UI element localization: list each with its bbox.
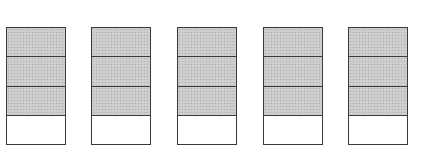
- fraction-bar-5: [348, 27, 408, 145]
- fraction-bar-4: [263, 27, 323, 145]
- shaded-part: [7, 87, 65, 116]
- shaded-part: [264, 28, 322, 57]
- fraction-bar-3: [177, 27, 237, 145]
- shaded-part: [92, 28, 150, 57]
- unshaded-part: [349, 116, 407, 144]
- shaded-part: [264, 57, 322, 86]
- shaded-part: [7, 57, 65, 86]
- unshaded-part: [264, 116, 322, 144]
- fraction-bar-1: [6, 27, 66, 145]
- shaded-part: [178, 57, 236, 86]
- unshaded-part: [178, 116, 236, 144]
- shaded-part: [7, 28, 65, 57]
- shaded-part: [92, 87, 150, 116]
- shaded-part: [178, 28, 236, 57]
- unshaded-part: [92, 116, 150, 144]
- shaded-part: [178, 87, 236, 116]
- shaded-part: [264, 87, 322, 116]
- shaded-part: [349, 57, 407, 86]
- shaded-part: [92, 57, 150, 86]
- unshaded-part: [7, 116, 65, 144]
- shaded-part: [349, 87, 407, 116]
- fraction-bar-2: [91, 27, 151, 145]
- shaded-part: [349, 28, 407, 57]
